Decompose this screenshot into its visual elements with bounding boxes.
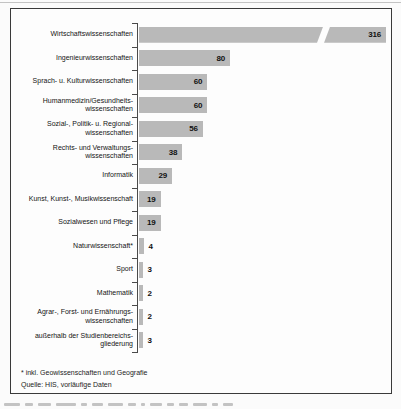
bar: 56 — [139, 121, 203, 137]
bar: 3 — [139, 262, 143, 278]
bar: 4 — [139, 238, 144, 254]
cutoff-caption-mark — [38, 403, 51, 406]
bar: 38 — [139, 144, 182, 160]
category-label: Sozialwesen und Pflege — [11, 211, 133, 235]
category-label: Rechts- und Verwaltungs-wissenschaften — [11, 141, 133, 165]
bar-value: 60 — [194, 74, 203, 90]
bar: 2 — [139, 309, 143, 325]
bar-value: 4 — [149, 238, 153, 254]
chart-row: Ingenieurwissenschaften80 — [11, 47, 391, 71]
source-text: Quelle: HIS, vorläufige Daten — [21, 379, 147, 391]
cutoff-caption-mark — [150, 403, 162, 406]
cutoff-caption-mark — [56, 403, 76, 406]
chart-row: Kunst, Kunst-, Musikwissenschaft19 — [11, 188, 391, 212]
cutoff-caption-mark — [141, 403, 145, 406]
footnote-text: * inkl. Geowissenschaften und Geografie — [21, 367, 147, 379]
bar-segment — [139, 27, 323, 43]
bar-value: 80 — [217, 50, 226, 66]
chart-row: Humanmedizin/Gesundheits-wissenschaften6… — [11, 94, 391, 118]
chart-row: Wirtschaftswissenschaften316 — [11, 23, 391, 47]
cutoff-caption-mark — [223, 403, 233, 406]
chart-row: Sozial-, Politik- u. Regional-wissenscha… — [11, 117, 391, 141]
chart-row: Sport3 — [11, 258, 391, 282]
bar: 29 — [139, 168, 172, 184]
bar-value: 316 — [368, 27, 381, 43]
chart-row: Agrar-, Forst- und Ernährungs-wissenscha… — [11, 305, 391, 329]
category-label-line: wissenschaften — [85, 152, 133, 161]
category-label-line: Rechts- und Verwaltungs- — [53, 144, 133, 153]
bar-value: 56 — [189, 121, 198, 137]
chart-row: außerhalb der Studienbereichs-gliederung… — [11, 329, 391, 353]
cutoff-caption-fragment — [4, 403, 233, 406]
category-label-line: Naturwissenschaft* — [73, 242, 133, 251]
bar: 316 — [139, 27, 386, 43]
bar-value: 3 — [148, 332, 152, 348]
cutoff-caption-mark — [193, 403, 207, 406]
bar-value: 2 — [148, 309, 152, 325]
bar-value: 29 — [158, 168, 167, 184]
cutoff-caption-mark — [92, 403, 103, 406]
top-rule-divider — [0, 2, 401, 3]
category-label-line: Humanmedizin/Gesundheits- — [43, 97, 133, 106]
category-label: außerhalb der Studienbereichs-gliederung — [11, 329, 133, 353]
category-label-line: wissenschaften — [85, 105, 133, 114]
chart-frame: Wirtschaftswissenschaften316Ingenieurwis… — [10, 8, 392, 394]
bar: 19 — [139, 215, 161, 231]
bar: 60 — [139, 97, 207, 113]
category-label-line: außerhalb der Studienbereichs- — [35, 332, 133, 341]
category-label: Naturwissenschaft* — [11, 235, 133, 259]
category-label-line: wissenschaften — [85, 129, 133, 138]
chart-row: Naturwissenschaft*4 — [11, 235, 391, 259]
category-label-line: Sport — [116, 265, 133, 274]
category-label-line: gliederung — [100, 340, 133, 349]
bar: 19 — [139, 191, 161, 207]
category-label: Sozial-, Politik- u. Regional-wissenscha… — [11, 117, 133, 141]
bar: 3 — [139, 332, 143, 348]
cutoff-caption-mark — [128, 403, 136, 406]
category-label-line: Sozial-, Politik- u. Regional- — [47, 120, 133, 129]
category-label-line: Kunst, Kunst-, Musikwissenschaft — [29, 195, 133, 204]
bar-value: 19 — [147, 215, 156, 231]
chart-footnotes: * inkl. Geowissenschaften und Geografie … — [21, 367, 147, 390]
category-label-line: Agrar-, Forst- und Ernährungs- — [37, 308, 133, 317]
cutoff-caption-mark — [167, 403, 174, 406]
bar: 80 — [139, 50, 230, 66]
bar-value: 19 — [147, 191, 156, 207]
bar-value: 38 — [169, 144, 178, 160]
cutoff-caption-mark — [81, 403, 87, 406]
bar-value: 2 — [148, 285, 152, 301]
category-label-line: Wirtschaftswissenschaften — [51, 30, 133, 39]
bar-value: 60 — [194, 97, 203, 113]
bar-value: 3 — [148, 262, 152, 278]
category-label-line: Sprach- u. Kulturwissenschaften — [33, 77, 133, 86]
cutoff-caption-mark — [4, 403, 20, 406]
category-label: Informatik — [11, 164, 133, 188]
cutoff-caption-mark — [25, 403, 33, 406]
scanned-chart-page: Wirtschaftswissenschaften316Ingenieurwis… — [0, 0, 401, 409]
category-label-line: Mathematik — [97, 289, 133, 298]
cutoff-caption-mark — [212, 403, 218, 406]
chart-row: Informatik29 — [11, 164, 391, 188]
category-label: Wirtschaftswissenschaften — [11, 23, 133, 47]
chart-row: Sprach- u. Kulturwissenschaften60 — [11, 70, 391, 94]
category-label: Agrar-, Forst- und Ernährungs-wissenscha… — [11, 305, 133, 329]
category-label-line: Ingenieurwissenschaften — [56, 54, 133, 63]
category-label: Sprach- u. Kulturwissenschaften — [11, 70, 133, 94]
bar: 2 — [139, 285, 143, 301]
category-label-line: wissenschaften — [85, 317, 133, 326]
category-label-line: Informatik — [102, 171, 133, 180]
category-label: Mathematik — [11, 282, 133, 306]
category-label: Sport — [11, 258, 133, 282]
chart-row: Mathematik2 — [11, 282, 391, 306]
category-label: Humanmedizin/Gesundheits-wissenschaften — [11, 94, 133, 118]
chart-row: Rechts- und Verwaltungs-wissenschaften38 — [11, 141, 391, 165]
bar-segment: 316 — [324, 27, 386, 43]
category-label-line: Sozialwesen und Pflege — [58, 218, 133, 227]
cutoff-caption-mark — [108, 403, 123, 406]
axis-tick — [132, 352, 137, 353]
chart-row: Sozialwesen und Pflege19 — [11, 211, 391, 235]
category-label: Kunst, Kunst-, Musikwissenschaft — [11, 188, 133, 212]
bar: 60 — [139, 74, 207, 90]
category-label: Ingenieurwissenschaften — [11, 47, 133, 71]
cutoff-caption-mark — [179, 403, 188, 406]
